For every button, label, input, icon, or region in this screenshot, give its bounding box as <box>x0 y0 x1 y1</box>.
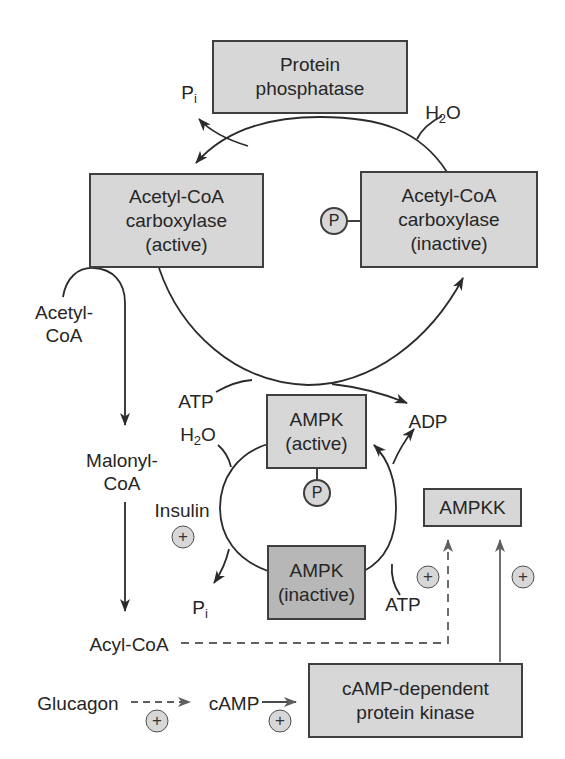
malonyl-coa-label: Malonyl- CoA <box>86 449 158 495</box>
box-label-line: Protein <box>280 53 340 77</box>
glucagon-plus-icon: + <box>146 710 169 733</box>
box-label-line: (active) <box>285 432 347 456</box>
acetyl-coa-carboxylase-active-box: Acetyl-CoA carboxylase (active) <box>89 173 264 268</box>
protein-phosphatase-box: Protein phosphatase <box>212 40 408 114</box>
atp-label-ampk: ATP <box>385 593 421 616</box>
ampk-h2o-input-curve <box>218 445 231 467</box>
insulin-plus-icon: + <box>172 526 195 549</box>
acyl-coa-label: Acyl-CoA <box>89 633 168 656</box>
ampk-dephosphorylation-arc <box>220 444 268 571</box>
ampk-active-box: AMPK (active) <box>266 394 367 469</box>
phosphate-icon: P <box>320 207 348 235</box>
box-label-line: AMPK <box>290 559 344 583</box>
box-label-line: phosphatase <box>256 77 365 101</box>
box-label-line: carboxylase <box>398 208 499 232</box>
h2o-label-ampk: H2O <box>180 423 216 446</box>
box-label-line: carboxylase <box>126 209 227 233</box>
ampk-atp-input-curve <box>392 564 400 595</box>
ampk-pi-release-arrow <box>214 549 229 583</box>
camp-plus-icon: + <box>269 710 292 733</box>
adp-label-cycle: ADP <box>408 410 447 433</box>
box-label-line: Acetyl-CoA <box>401 184 496 208</box>
box-label-line: cAMP-dependent <box>342 677 489 701</box>
insulin-label: Insulin <box>155 499 210 522</box>
pathway-diagram: cAMP dashed arrow --> Protein phosphatas… <box>0 0 565 759</box>
box-label-line: (inactive) <box>410 232 487 256</box>
pi-label-ampk: Pi <box>192 596 208 619</box>
phosphorylation-arc <box>159 268 463 385</box>
plus-sign: + <box>178 526 188 546</box>
plus-sign: + <box>423 566 433 586</box>
ampkk-box: AMPKK <box>423 488 522 527</box>
acetyl-coa-label: Acetyl- CoA <box>35 301 93 347</box>
plus-sign: + <box>518 566 528 586</box>
dephosphorylation-arc <box>196 117 447 172</box>
ampk-adp-release-arrow <box>393 429 414 464</box>
box-label-line: AMPKK <box>439 496 506 520</box>
atp-input-curve <box>216 380 252 392</box>
phosphate-icon: P <box>303 479 331 507</box>
atp-label-cycle: ATP <box>178 390 214 413</box>
plus-sign: + <box>275 710 285 730</box>
h2o-label-top: H2O <box>425 101 461 124</box>
plus-sign: + <box>152 710 162 730</box>
ampk-inactive-box: AMPK (inactive) <box>267 545 366 620</box>
phosphate-letter: P <box>312 484 323 502</box>
box-label-line: AMPK <box>290 408 344 432</box>
acyl-coa-plus-icon: + <box>417 566 440 589</box>
camp-label: cAMP <box>209 692 260 715</box>
camp-dependent-protein-kinase-box: cAMP-dependent protein kinase <box>308 663 523 738</box>
pi-label-top: Pi <box>181 81 197 104</box>
glucagon-label: Glucagon <box>37 692 118 715</box>
box-label-line: protein kinase <box>356 701 474 725</box>
pi-release-arrow <box>199 119 248 146</box>
box-label-line: (active) <box>145 233 207 257</box>
phosphate-letter: P <box>329 212 340 230</box>
box-label-line: (inactive) <box>278 583 355 607</box>
acetyl-coa-carboxylase-inactive-box: Acetyl-CoA carboxylase (inactive) <box>360 171 538 268</box>
kinase-plus-icon: + <box>512 566 535 589</box>
box-label-line: Acetyl-CoA <box>129 185 224 209</box>
ampk-phosphorylation-arc <box>364 445 396 571</box>
